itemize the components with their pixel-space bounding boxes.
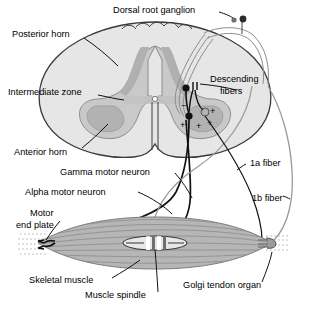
ganglion-cell-body-2 (240, 16, 247, 23)
label-descending-fibers-line1: Descending (210, 74, 259, 84)
label-intermediate-zone: Intermediate zone (8, 87, 82, 97)
leader-golgi-tendon-organ (262, 252, 272, 282)
label-gamma-motor-neuron: Gamma motor neuron (60, 167, 150, 177)
label-1b-fiber: 1b fiber (252, 193, 283, 203)
synapse-excitatory-mark-3: + (196, 121, 201, 131)
central-canal (152, 96, 157, 101)
label-anterior-horn: Anterior horn (14, 147, 67, 157)
label-dorsal-root-ganglion: Dorsal root ganglion (113, 5, 195, 15)
spinal-reflex-arc-diagram: − + + + + (0, 0, 311, 313)
synapse-excitatory-mark-1: + (210, 106, 215, 116)
skeletal-muscle-group (18, 217, 290, 269)
label-posterior-horn: Posterior horn (12, 29, 70, 39)
label-skeletal-muscle: Skeletal muscle (29, 275, 93, 285)
label-motor-end-plate-line1: Motor (30, 208, 54, 218)
leader-1b-fiber (283, 196, 290, 199)
label-muscle-spindle: Muscle spindle (85, 290, 146, 300)
synapse-inhibitory-mark: − (181, 101, 186, 111)
interneuron-soma (182, 84, 189, 91)
synapse-excitatory-mark-2: + (180, 120, 185, 130)
label-motor-end-plate-line2: end plate (16, 220, 54, 230)
label-alpha-motor-neuron: Alpha motor neuron (25, 187, 106, 197)
leader-dorsal-root-ganglion (219, 12, 233, 18)
label-1a-fiber: 1a fiber (250, 158, 281, 168)
label-descending-fibers-line2: fibers (220, 86, 243, 96)
label-golgi-tendon-organ: Golgi tendon organ (183, 280, 261, 290)
ganglion-cell-body-1 (231, 17, 236, 22)
